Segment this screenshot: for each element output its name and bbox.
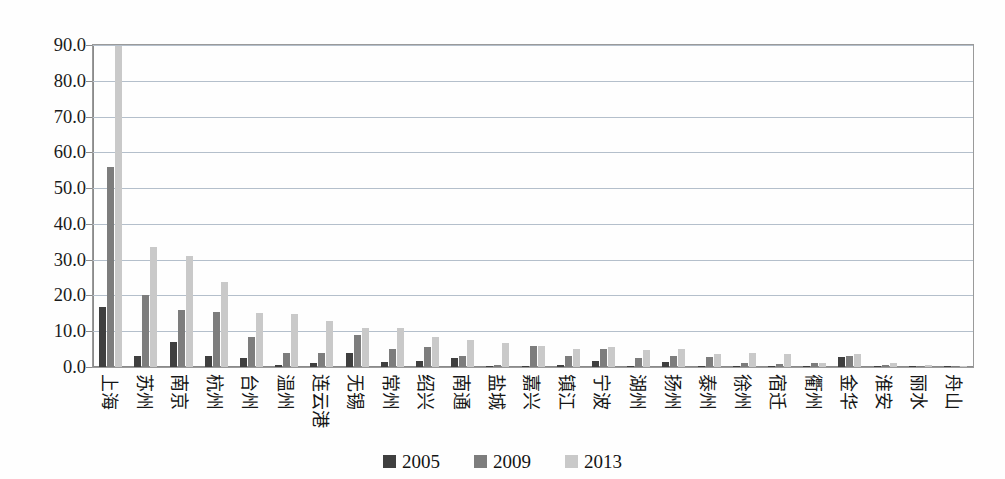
x-axis-label-cell: 金华 [832, 372, 867, 444]
bar-2009 [494, 365, 501, 367]
bar-2005 [944, 366, 951, 367]
x-axis-label-cell: 淮安 [867, 372, 902, 444]
bar-2013 [432, 337, 439, 367]
x-axis-label-cell: 温州 [269, 372, 304, 444]
bar-2009 [142, 295, 149, 367]
bar-2005 [874, 366, 881, 367]
bar-2005 [99, 307, 106, 367]
bar-2009 [107, 167, 114, 367]
x-axis-label-cell: 连云港 [304, 372, 339, 444]
x-axis-tick-label: 湖州 [626, 374, 652, 410]
bar-2013 [749, 353, 756, 367]
y-axis-tick-label: 20.0 [54, 286, 86, 305]
bar-group [621, 45, 656, 367]
x-axis-tick-label: 嘉兴 [520, 374, 546, 410]
legend-item[interactable]: 2005 [383, 452, 440, 471]
bar-2013 [150, 247, 157, 367]
x-axis-tick-label: 常州 [379, 374, 405, 410]
bar-group [339, 45, 374, 367]
bar-group [410, 45, 445, 367]
bar-2009 [530, 346, 537, 367]
x-axis-label-cell: 绍兴 [410, 372, 445, 444]
bar-2009 [318, 353, 325, 367]
bar-2009 [635, 358, 642, 367]
bar-2005 [838, 357, 845, 367]
x-axis-tick-label: 淮安 [872, 374, 898, 410]
bar-2009 [952, 366, 959, 367]
bar-2005 [170, 342, 177, 367]
bar-group [269, 45, 304, 367]
bar-2005 [522, 366, 529, 367]
bars-layer [93, 45, 973, 367]
bar-group [586, 45, 621, 367]
x-axis-label-cell: 上海 [93, 372, 128, 444]
x-axis-label-cell: 湖州 [621, 372, 656, 444]
bar-2005 [346, 353, 353, 367]
x-axis-label-cell: 盐城 [480, 372, 515, 444]
x-axis-label-cell: 台州 [234, 372, 269, 444]
x-axis-label-cell: 南通 [445, 372, 480, 444]
x-axis-tick-label: 宿迁 [766, 374, 792, 410]
x-axis-tick-label: 盐城 [485, 374, 511, 410]
bar-group [551, 45, 586, 367]
y-axis-tick-label: 50.0 [54, 179, 86, 198]
bar-group [797, 45, 832, 367]
bar-2009 [178, 310, 185, 367]
bar-2009 [811, 363, 818, 367]
bar-2013 [186, 256, 193, 367]
bar-2013 [397, 328, 404, 367]
legend-item[interactable]: 2009 [474, 452, 531, 471]
bar-2013 [819, 363, 826, 367]
x-axis-tick-label: 南通 [450, 374, 476, 410]
x-axis-tick-label: 南京 [168, 374, 194, 410]
bar-2009 [706, 357, 713, 367]
bar-2009 [283, 353, 290, 367]
bar-2005 [310, 363, 317, 367]
bar-2005 [275, 365, 282, 367]
x-axis-tick-label: 镇江 [555, 374, 581, 410]
bar-group [234, 45, 269, 367]
x-axis-label-cell: 镇江 [551, 372, 586, 444]
bar-2013 [362, 328, 369, 367]
bar-2005 [205, 356, 212, 367]
bar-2005 [416, 361, 423, 367]
x-axis-label-cell: 徐州 [727, 372, 762, 444]
bar-group [199, 45, 234, 367]
bar-2013 [784, 354, 791, 367]
legend-item[interactable]: 2013 [565, 452, 622, 471]
bar-group [903, 45, 938, 367]
x-axis-label-cell: 苏州 [128, 372, 163, 444]
x-axis-label-cell: 丽水 [903, 372, 938, 444]
chart-legend: 200520092013 [0, 452, 1005, 471]
legend-label: 2009 [493, 452, 531, 471]
x-axis-tick-label: 温州 [274, 374, 300, 410]
x-axis-label-cell: 宁波 [586, 372, 621, 444]
bar-group [304, 45, 339, 367]
bar-2009 [600, 349, 607, 367]
bar-group [163, 45, 198, 367]
bar-group [762, 45, 797, 367]
x-axis-tick-label: 台州 [238, 374, 264, 410]
bar-2013 [925, 365, 932, 367]
x-axis-label-cell: 常州 [375, 372, 410, 444]
bar-2005 [486, 366, 493, 367]
x-axis-tick-label: 连云港 [309, 374, 335, 428]
bar-2013 [326, 321, 333, 368]
y-axis-tick-label: 60.0 [54, 143, 86, 162]
x-axis-label-cell: 扬州 [656, 372, 691, 444]
bar-2005 [240, 358, 247, 367]
y-axis: 90.080.070.060.050.040.030.020.010.00.0 [0, 0, 86, 420]
bar-group [480, 45, 515, 367]
x-axis-label-cell: 杭州 [199, 372, 234, 444]
bar-2005 [768, 366, 775, 367]
bar-2013 [854, 354, 861, 367]
x-axis-tick-label: 无锡 [344, 374, 370, 410]
y-axis-tick-label: 90.0 [54, 36, 86, 55]
x-axis-tick-label: 舟山 [942, 374, 968, 410]
bar-2009 [424, 347, 431, 367]
bar-2009 [882, 365, 889, 368]
bar-group [832, 45, 867, 367]
x-axis-tick-label: 金华 [837, 374, 863, 410]
bar-2013 [714, 354, 721, 367]
bar-2013 [890, 363, 897, 367]
